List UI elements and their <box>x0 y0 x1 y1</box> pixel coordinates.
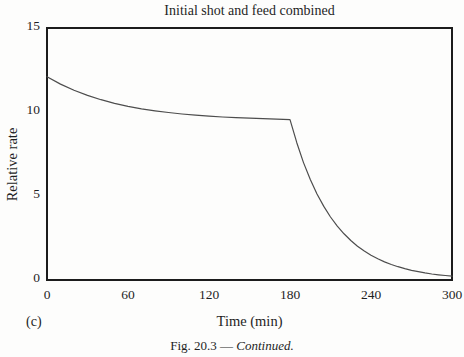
plot-area <box>0 0 464 357</box>
y-tick-label: 0 <box>33 270 40 285</box>
rate-curve <box>47 77 452 276</box>
x-tick-label: 60 <box>121 287 135 302</box>
panel-label: (c) <box>26 314 42 330</box>
x-tick-label: 0 <box>44 287 51 302</box>
x-tick-label: 300 <box>442 287 462 302</box>
x-tick-label: 180 <box>280 287 300 302</box>
y-tick-label: 10 <box>27 102 41 117</box>
x-tick-label: 240 <box>361 287 381 302</box>
caption-emphasis: Continued. <box>236 338 293 353</box>
figure-caption: Fig. 20.3 — Continued. <box>0 338 464 354</box>
figure-panel-c: Initial shot and feed combined Relative … <box>0 0 464 357</box>
x-tick-label: 120 <box>199 287 219 302</box>
y-tick-label: 5 <box>33 186 40 201</box>
caption-prefix: Fig. 20.3 — <box>170 338 236 353</box>
x-axis-title: Time (min) <box>47 313 452 330</box>
y-axis-title: Relative rate <box>4 95 21 235</box>
plot-border <box>47 28 452 280</box>
y-tick-label: 15 <box>27 18 41 33</box>
